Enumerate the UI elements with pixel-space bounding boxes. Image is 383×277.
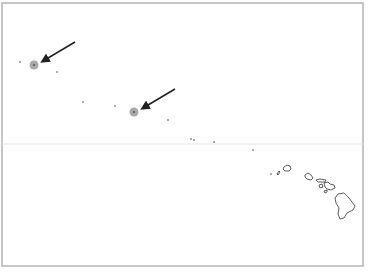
islet-3-icon xyxy=(82,101,84,103)
islet-7-icon xyxy=(193,139,195,141)
highlight-site-1-center-icon xyxy=(33,64,35,66)
islet-9-icon xyxy=(252,149,254,151)
islet-5-icon xyxy=(167,119,169,121)
islet-4-icon xyxy=(114,105,116,107)
islet-8-icon xyxy=(213,141,215,143)
islet-6-icon xyxy=(190,138,192,140)
hawaii-map xyxy=(0,0,383,277)
islet-1-icon xyxy=(19,61,21,63)
islet-2-icon xyxy=(56,71,58,73)
highlight-site-2-center-icon xyxy=(133,111,135,113)
kaula-icon xyxy=(270,173,272,175)
